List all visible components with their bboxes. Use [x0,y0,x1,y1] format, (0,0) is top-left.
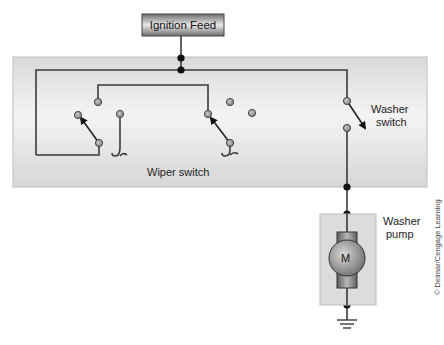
wiper-switch-label: Wiper switch [147,166,209,179]
switch-panel [13,57,427,187]
washer-switch-label-line2: switch [376,116,407,129]
washer-pump-label-line2: pump [386,228,414,241]
ignition-feed-label: Ignition Feed [142,14,224,36]
wiring-diagram [0,0,444,345]
washer-switch-label-line1: Washer [371,103,409,116]
copyright-credit: © Delmar/Cengage Learning [433,199,442,295]
washer-pump-label-line1: Washer [383,215,421,228]
motor-symbol: M [341,252,350,265]
ground-icon [337,320,357,328]
